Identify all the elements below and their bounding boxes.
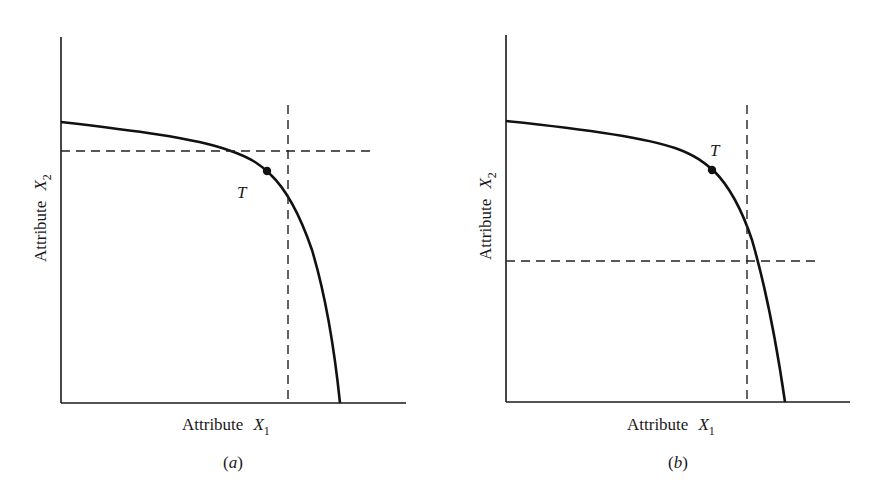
panel-b: T AttributeX1 AttributeX2 (b): [476, 35, 850, 472]
x-axis-label: AttributeX1: [627, 415, 715, 438]
panel-caption: (a): [223, 453, 243, 472]
panel-a: T AttributeX1 AttributeX2 (a): [31, 37, 406, 472]
panel-caption: (b): [668, 453, 688, 472]
x-axis-label: AttributeX1: [182, 415, 270, 438]
point-t-label: T: [237, 183, 248, 202]
y-axis-label: AttributeX2: [476, 172, 499, 260]
point-t-marker: [708, 166, 716, 174]
point-t-marker: [263, 167, 271, 175]
point-t-label: T: [710, 141, 721, 160]
figure: T AttributeX1 AttributeX2 (a) T Attribut…: [0, 0, 875, 489]
frontier-curve: [61, 122, 340, 403]
y-axis-label: AttributeX2: [31, 174, 54, 262]
